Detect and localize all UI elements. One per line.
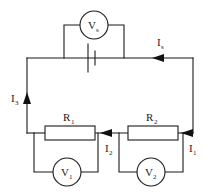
label-i2-sub: 2 xyxy=(109,149,113,157)
label-v1-sub: 1 xyxy=(69,173,73,181)
current-is-arrow xyxy=(152,54,164,62)
label-vs-base: V xyxy=(88,19,96,31)
label-r2-base: R xyxy=(146,111,154,123)
current-i3-arrow xyxy=(23,92,31,104)
label-r1-sub: 1 xyxy=(71,118,75,126)
label-is: I s xyxy=(157,36,164,51)
label-i1-sub: 1 xyxy=(193,149,197,157)
label-is-sub: s xyxy=(161,43,164,51)
label-r1-base: R xyxy=(63,111,71,123)
label-i1: I 1 xyxy=(189,142,197,157)
resistor-r2-symbol xyxy=(128,126,178,140)
current-i2-arrow xyxy=(100,129,112,137)
label-v1-base: V xyxy=(61,166,69,178)
label-r1: R 1 xyxy=(63,111,75,126)
circuit-diagram: V s V 1 V 2 R 1 R 2 I s I xyxy=(0,0,209,196)
label-vs-sub: s xyxy=(96,26,99,34)
resistor-r1-symbol xyxy=(45,126,95,140)
label-r2-sub: 2 xyxy=(154,118,158,126)
vs-branch-right-wire xyxy=(108,25,124,58)
vs-branch-left-wire xyxy=(64,25,80,58)
label-i2: I 2 xyxy=(105,142,113,157)
label-v2-base: V xyxy=(145,166,153,178)
label-r2: R 2 xyxy=(146,111,158,126)
label-i3-sub: 3 xyxy=(15,99,19,107)
main-loop-wires xyxy=(27,58,193,133)
label-v2-sub: 2 xyxy=(153,173,157,181)
label-i3: I 3 xyxy=(11,92,19,107)
